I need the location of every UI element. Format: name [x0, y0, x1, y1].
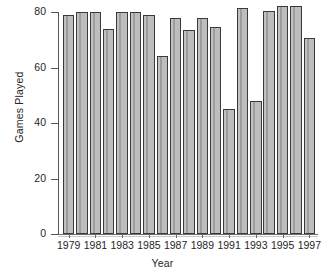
y-tick-mark	[51, 123, 59, 124]
y-tick-label: 20	[6, 172, 46, 184]
bar	[304, 38, 315, 234]
plot-area	[62, 8, 316, 234]
x-axis-label: Year	[0, 257, 325, 269]
bar	[63, 15, 74, 234]
x-tick-mark	[176, 234, 177, 238]
bar	[90, 12, 101, 234]
y-tick-label: 40	[6, 116, 46, 128]
x-axis-shadow-line	[58, 236, 318, 237]
bar	[183, 30, 194, 234]
bar	[197, 18, 208, 234]
bar	[170, 18, 181, 234]
bar	[76, 12, 87, 234]
x-tick-mark	[95, 234, 96, 238]
bar	[223, 109, 234, 234]
x-tick-mark	[283, 234, 284, 238]
bar	[277, 6, 288, 234]
y-tick-mark	[51, 68, 59, 69]
y-tick-mark	[51, 234, 59, 235]
y-tick-mark	[51, 179, 59, 180]
x-tick-mark	[229, 234, 230, 238]
bar	[157, 56, 168, 234]
x-axis-line	[58, 234, 318, 235]
bar	[116, 12, 127, 234]
bar	[143, 15, 154, 234]
x-tick-label: 1997	[289, 239, 325, 251]
x-tick-mark	[122, 234, 123, 238]
bar	[263, 11, 274, 234]
x-tick-mark	[149, 234, 150, 238]
x-tick-mark	[256, 234, 257, 238]
bar	[290, 6, 301, 234]
y-tick-label: 0	[6, 227, 46, 239]
bar	[250, 101, 261, 234]
x-tick-mark	[202, 234, 203, 238]
bar	[103, 29, 114, 234]
y-tick-mark	[51, 12, 59, 13]
x-tick-mark	[309, 234, 310, 238]
y-tick-label: 60	[6, 61, 46, 73]
y-tick-label: 80	[6, 5, 46, 17]
bar	[130, 12, 141, 234]
bar	[237, 8, 248, 234]
bar-chart: Games Played 020406080 19791981198319851…	[0, 0, 325, 277]
x-tick-mark	[69, 234, 70, 238]
bar	[210, 27, 221, 234]
